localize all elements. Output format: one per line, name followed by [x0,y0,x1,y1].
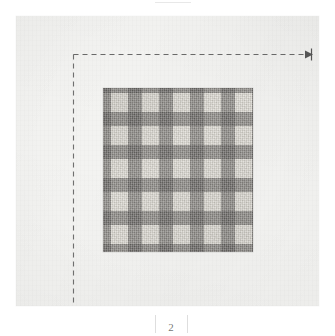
scanned-page-canvas: 2 [0,0,335,336]
page-number: 2 [155,321,187,331]
top-crop-mark [155,2,191,3]
swatch-shading-overlay [103,88,253,252]
footer-rule-right [187,315,188,333]
gingham-fabric-swatch [103,88,253,252]
page-footer: 2 [0,313,335,336]
